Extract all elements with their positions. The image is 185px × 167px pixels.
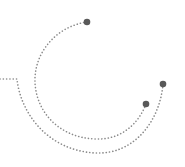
outer-endpoint-dot	[160, 81, 167, 88]
outer-dotted-arc	[0, 79, 163, 153]
inner-dotted-arc	[35, 22, 146, 139]
decorative-graphic	[0, 0, 185, 167]
inner-endpoint-dot	[143, 101, 150, 108]
top-endpoint-dot	[84, 19, 91, 26]
dotted-arcs-graphic	[0, 0, 185, 167]
